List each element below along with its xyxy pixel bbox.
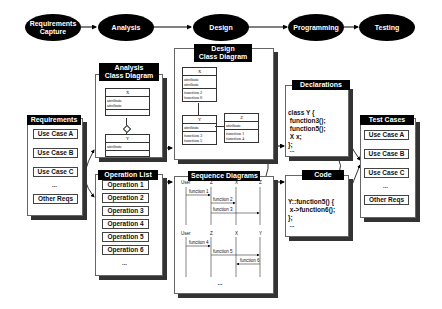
lifeline-label: X [235,180,238,185]
message-label: function 4 [189,240,209,245]
lifeline-label: Z [210,231,213,236]
lifeline-label: User [181,231,191,236]
declarations-title: Declarations [292,80,350,90]
code-line: }; [288,214,335,222]
test-case-item: Use Case B [364,149,409,159]
code-line: Y::function5() { [288,198,335,206]
code-line: function3(); [288,117,326,125]
lifeline-label: Z [259,180,262,185]
code-line: x->function6(); [288,206,335,214]
code-line: X x; [288,133,326,141]
sequence-ellipsis: ... [210,280,230,286]
test-cases-title: Test Cases [360,115,414,125]
code-line: function5(); [288,125,326,133]
declarations-ellipsis: ... [288,147,296,153]
test-case-item: Use Case C [364,168,409,178]
code-ellipsis: ... [288,222,296,228]
code-title: Code [302,170,344,180]
message-label: function 5 [213,249,233,254]
test-case-item: Other Reqs [364,195,409,205]
test-case-item: Use Case A [364,130,409,140]
message-label: function 2 [213,197,233,202]
message-label: function 6 [240,258,260,263]
message-label: function 1 [189,189,209,194]
lifeline-label: User [181,180,191,185]
test-case-ellipsis: ... [364,183,407,189]
lifeline-label: Z [210,180,213,185]
code-line: class Y { [288,109,326,117]
message-label: function 3 [213,207,233,212]
lifeline-label: Y [259,231,262,236]
lifeline-label: X [235,231,238,236]
